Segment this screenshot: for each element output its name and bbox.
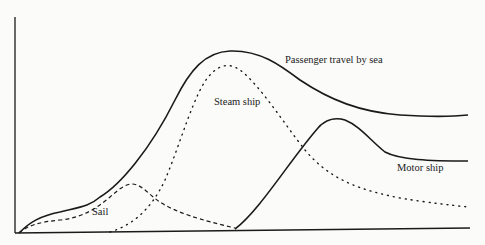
chart-canvas	[0, 0, 485, 245]
motor-ship-curve	[235, 119, 468, 229]
sail-label: Sail	[92, 206, 108, 217]
motor-ship-label: Motor ship	[397, 162, 443, 173]
sail-curve	[19, 184, 235, 233]
steam-ship-curve	[110, 66, 468, 232]
passenger-travel-label: Passenger travel by sea	[285, 54, 383, 65]
passenger-travel-curve	[19, 51, 468, 233]
x-axis	[15, 228, 470, 233]
steam-ship-label: Steam ship	[214, 96, 260, 107]
